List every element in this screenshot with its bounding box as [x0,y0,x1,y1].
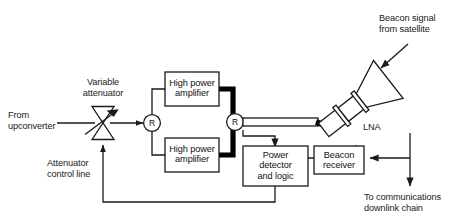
node-label-splitter: R [144,118,160,128]
diagram-canvas: From upconverter Variable attenuator Att… [0,0,452,224]
node-label-combiner: R [227,117,243,127]
horn-antenna [309,61,403,149]
block-label-hpa-top: High power amplifier [165,78,219,99]
main-waveguide-run [243,118,327,126]
label-variable-attenuator: Variable attenuator [63,77,143,98]
block-label-hpa-bottom: High power amplifier [165,144,219,165]
block-label-power-detector: Power detector and logic [243,150,308,181]
label-beacon-signal: Beacon signal from satellite [379,13,435,34]
label-to-communications-downlink: To communications downlink chain [364,192,441,213]
block-label-beacon-receiver: Beacon receiver [314,150,364,171]
label-attenuator-control-line: Attenuator control line [47,158,90,179]
label-from-upconverter: From upconverter [8,110,55,131]
label-lna: LNA [363,122,381,133]
beacon-signal-arrow [381,44,408,68]
coupler-to-detector-line [243,130,275,147]
